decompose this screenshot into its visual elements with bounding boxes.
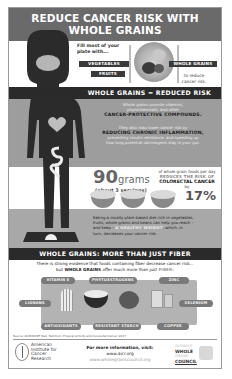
- popcorn-icon: [61, 289, 73, 311]
- to-reduce-text: to reduce cancer risk.: [179, 73, 209, 84]
- grain-bowl-icon: [91, 195, 115, 208]
- nutrient-resistant-starch: RESISTANT STARCH: [93, 323, 141, 330]
- healthy-weight-text: Eating a mostly plant-based diet rich in…: [93, 215, 217, 236]
- plate-icon: [134, 42, 174, 82]
- aicr-name: American Institute for Cancer Research: [31, 343, 71, 361]
- weight-line-4: turn, decreases your cancer risk.: [93, 231, 217, 236]
- inflammation-text: They also may lower cancer risk by REDUC…: [89, 125, 217, 145]
- healthy-weight-highlight: A HEALTHY WEIGHT: [115, 225, 163, 230]
- weight-line-3-post: , which, in: [163, 225, 183, 230]
- brain-icon: [36, 55, 60, 71]
- grain-bowl-icon: [151, 195, 175, 208]
- weight-line-3-pre: and keep –: [93, 225, 115, 230]
- nutrient-copper: COPPER: [157, 323, 189, 330]
- fiber-intro: There is strong evidence that foods cont…: [9, 261, 221, 273]
- tag-whole-grains: WHOLE GRAINS: [169, 61, 217, 67]
- nutrient-selenium: SELENIUM: [179, 300, 213, 307]
- nutrient-antioxidants: ANTIOXIDANTS: [41, 323, 81, 330]
- info-heading: For more information, visit:: [87, 345, 154, 350]
- fiber-intro-mid: offer much more than just: [101, 267, 158, 272]
- food-icon: [154, 64, 164, 73]
- divider: [13, 339, 217, 340]
- nutrient-lignans: LIGNANS: [19, 300, 51, 307]
- wgc-logo: OLDWAYS WHOLE GRAINS COUNCIL: [175, 344, 197, 364]
- aicr-line-4: Research: [31, 357, 71, 362]
- source-citation: Source: AICR/WCRF Diet, Nutrition, Physi…: [13, 334, 126, 338]
- fork-icon: [129, 45, 131, 83]
- inflammation-line-4: how long potential carcinogens stay in y…: [89, 140, 217, 145]
- stat-number: 90: [93, 166, 118, 187]
- to-reduce-line-2: cancer risk.: [179, 79, 209, 85]
- wheat-icon: [199, 346, 213, 360]
- compounds-emphasis: CANCER-PROTECTIVE COMPOUNDS.: [89, 112, 217, 117]
- aicr-logo-icon: [15, 343, 29, 361]
- tag-fruits: FRUITS: [91, 71, 125, 77]
- infographic-poster: REDUCE CANCER RISK WITH WHOLE GRAINS Fil…: [8, 7, 222, 369]
- stat-unit: grams: [118, 174, 150, 185]
- more-info: For more information, visit: www.aicr.or…: [81, 345, 159, 363]
- stat-percent: 17%: [185, 189, 216, 203]
- food-icon: [152, 49, 166, 61]
- grain-dish-icon: [119, 291, 139, 309]
- bread-icon: [151, 290, 163, 308]
- fiber-intro-bold: WHOLE GRAINS: [64, 267, 101, 272]
- compounds-text: Whole grains provide vitamins, phytochem…: [89, 102, 217, 117]
- section-heading-more-than-fiber: WHOLE GRAINS: MORE THAN JUST FIBER: [9, 248, 221, 260]
- bread-icon: [164, 294, 173, 308]
- nutrient-zinc: ZINC: [159, 277, 189, 284]
- nutrient-phytoestrogens: PHYTOESTROGENS: [89, 277, 137, 284]
- stat-description: of whole grain foods per day REDUCES THE…: [155, 169, 219, 189]
- human-figure-icon: [9, 8, 91, 248]
- fiber-intro-fiber: FIBER:: [159, 267, 174, 272]
- link-wholegrains-council[interactable]: www.wholegrainscouncil.org: [81, 357, 159, 363]
- fiber-intro-line-2: but WHOLE GRAINS offer much more than ju…: [9, 267, 221, 273]
- wgc-line-4: COUNCIL: [175, 359, 197, 364]
- nutrient-vitamin-e: VITAMIN E: [41, 277, 75, 284]
- body-silhouette: [27, 96, 85, 228]
- grain-bowl-icon: [121, 195, 145, 208]
